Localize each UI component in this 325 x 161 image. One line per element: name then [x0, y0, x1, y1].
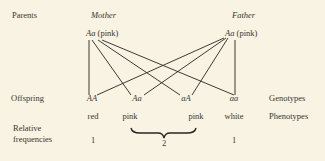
offspring-genotype-aA: aA	[181, 93, 190, 103]
row-label-offspring: Offspring	[11, 93, 44, 103]
father-phenotype-value: (pink)	[237, 28, 258, 38]
mother-genotype: Aa (pink)	[86, 28, 118, 38]
label-genotypes: Genotypes	[269, 93, 305, 103]
offspring-phenotype-pink-2: pink	[188, 111, 203, 121]
line-mother-to-Aa	[92, 40, 131, 95]
offspring-genotype-Aa: Aa	[132, 93, 141, 103]
row-label-parents: Parents	[12, 10, 37, 20]
mother-phenotype-value: (pink)	[98, 28, 119, 38]
father-title: Father	[232, 10, 255, 20]
row-label-frequencies: frequencies	[13, 134, 52, 144]
father-genotype: Aa (pink)	[225, 28, 257, 38]
offspring-phenotype-pink-1: pink	[122, 111, 137, 121]
mother-title: Mother	[91, 10, 116, 20]
label-phenotypes: Phenotypes	[269, 111, 308, 121]
offspring-phenotype-white: white	[225, 111, 244, 121]
father-genotype-value: Aa	[225, 28, 234, 38]
mother-genotype-value: Aa	[86, 28, 95, 38]
offspring-genotype-aa: aa	[230, 93, 239, 103]
brace	[131, 128, 196, 138]
frequency-pink: 2	[162, 138, 166, 148]
line-father-to-AA	[97, 38, 224, 95]
line-father-to-aA	[192, 38, 228, 95]
offspring-phenotype-red: red	[88, 111, 99, 121]
frequency-red: 1	[91, 135, 95, 145]
row-label-relative: Relative	[13, 123, 41, 133]
offspring-genotype-AA: AA	[87, 93, 97, 103]
frequency-white: 1	[232, 135, 236, 145]
